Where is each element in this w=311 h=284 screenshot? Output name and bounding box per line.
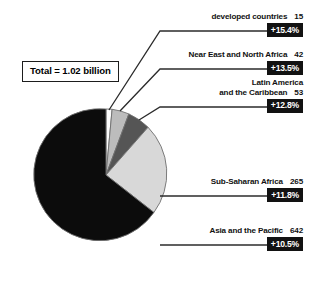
callout-label-latin-america-caribbean: Latin America and the Caribbean53 (160, 78, 303, 97)
callout-label-developed-countries: developed countries15 (160, 12, 303, 22)
callout-name-developed-countries: developed countries (211, 12, 287, 21)
callout-label-sub-saharan-africa: Sub-Saharan Africa265 (160, 177, 303, 187)
callout-name-near-east-north-africa: Near East and North Africa (188, 50, 287, 59)
callout-label-near-east-north-africa: Near East and North Africa42 (160, 50, 303, 60)
badge-developed-countries: +15.4% (267, 23, 303, 37)
callout-near-east-north-africa: Near East and North Africa42 +13.5% (160, 50, 303, 75)
callout-name-line1-latin-america-caribbean: Latin America (160, 78, 303, 88)
callout-asia-pacific: Asia and the Pacific642 +10.5% (160, 226, 303, 251)
badge-asia-pacific: +10.5% (267, 237, 303, 251)
badge-latin-america-caribbean: +12.8% (267, 99, 303, 113)
callout-value-latin-america-caribbean: 53 (294, 88, 303, 98)
pie-chart-figure: Total = 1.02 billion developed countries… (0, 0, 311, 284)
total-box: Total = 1.02 billion (22, 61, 119, 82)
badge-sub-saharan-africa: +11.8% (267, 188, 303, 202)
badge-near-east-north-africa: +13.5% (267, 61, 303, 75)
callout-name-asia-pacific: Asia and the Pacific (209, 226, 282, 235)
callout-sub-saharan-africa: Sub-Saharan Africa265 +11.8% (160, 177, 303, 202)
callout-developed-countries: developed countries15 +15.4% (160, 12, 303, 37)
callout-name-sub-saharan-africa: Sub-Saharan Africa (211, 177, 283, 186)
callout-value-developed-countries: 15 (294, 12, 303, 22)
pie-slices (34, 109, 167, 241)
callout-value-asia-pacific: 642 (290, 226, 303, 236)
callout-latin-america-caribbean: Latin America and the Caribbean53 +12.8% (160, 78, 303, 113)
callout-name-line2-latin-america-caribbean: and the Caribbean (219, 88, 287, 97)
callout-label-asia-pacific: Asia and the Pacific642 (160, 226, 303, 236)
callout-value-near-east-north-africa: 42 (294, 50, 303, 60)
callout-value-sub-saharan-africa: 265 (290, 177, 303, 187)
